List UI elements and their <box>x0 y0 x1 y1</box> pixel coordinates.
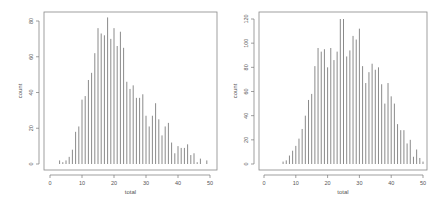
left-histogram-panel: 01020304050020406080totalcount <box>17 12 217 195</box>
y-tick-label: 80 <box>243 64 249 70</box>
y-tick-label: 40 <box>243 113 249 119</box>
x-tick-label: 0 <box>262 180 265 186</box>
y-tick-label: 60 <box>243 88 249 94</box>
x-axis-label: total <box>125 189 136 195</box>
y-tick-label: 40 <box>28 89 34 95</box>
y-tick-label: 20 <box>243 137 249 143</box>
x-tick-label: 0 <box>48 180 51 186</box>
x-tick-label: 40 <box>388 180 394 186</box>
histogram-panels: 01020304050020406080totalcount 010203040… <box>0 0 448 205</box>
x-tick-label: 50 <box>420 180 426 186</box>
x-axis-label: total <box>337 189 348 195</box>
x-tick-label: 40 <box>175 180 181 186</box>
figure: 01020304050020406080totalcount 010203040… <box>0 0 448 205</box>
x-tick-label: 30 <box>143 180 149 186</box>
x-tick-label: 30 <box>356 180 362 186</box>
x-tick-label: 50 <box>207 180 213 186</box>
y-axis-label: count <box>232 83 238 98</box>
x-tick-label: 20 <box>111 180 117 186</box>
y-tick-label: 80 <box>28 18 34 24</box>
right-histogram-panel: 01020304050020406080100120totalcount <box>232 12 427 195</box>
x-tick-label: 20 <box>325 180 331 186</box>
y-tick-label: 60 <box>28 54 34 60</box>
x-tick-label: 10 <box>293 180 299 186</box>
y-tick-label: 20 <box>28 125 34 131</box>
y-axis-label: count <box>17 83 23 98</box>
y-tick-label: 0 <box>28 162 34 165</box>
y-tick-label: 100 <box>243 39 249 48</box>
y-tick-label: 0 <box>243 162 249 165</box>
x-tick-label: 10 <box>79 180 85 186</box>
y-tick-label: 120 <box>243 14 249 23</box>
